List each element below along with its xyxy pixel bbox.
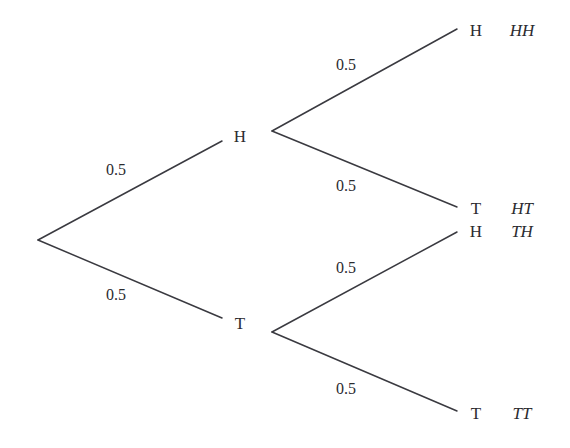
edge-h-ht (272, 131, 457, 207)
node-label-h-level1: H (234, 128, 246, 145)
outcome-label-hh: HH (510, 22, 535, 39)
probability-label-root-h: 0.5 (106, 162, 126, 178)
tree-edges-canvas (0, 0, 570, 448)
edge-group (38, 29, 457, 411)
outcome-label-ht: HT (511, 200, 533, 217)
probability-label-t-tt: 0.5 (336, 381, 356, 397)
edge-root-h (38, 141, 222, 240)
probability-tree-diagram: H T H T H T HH HT TH TT 0.5 0.5 0.5 0.5 … (0, 0, 570, 448)
node-label-t-level1: T (235, 315, 245, 332)
probability-label-t-th: 0.5 (336, 260, 356, 276)
node-label-h-th: H (470, 223, 482, 240)
probability-label-h-hh: 0.5 (336, 57, 356, 73)
probability-label-h-ht: 0.5 (336, 178, 356, 194)
outcome-label-tt: TT (513, 405, 532, 422)
probability-label-root-t: 0.5 (106, 287, 126, 303)
node-label-h-hh: H (470, 22, 482, 39)
node-label-t-tt: T (471, 405, 481, 422)
node-label-t-ht: T (471, 200, 481, 217)
edge-t-tt (272, 332, 457, 411)
edge-t-th (272, 232, 457, 332)
edge-h-hh (272, 29, 457, 131)
outcome-label-th: TH (511, 223, 533, 240)
edge-root-t (38, 240, 222, 318)
